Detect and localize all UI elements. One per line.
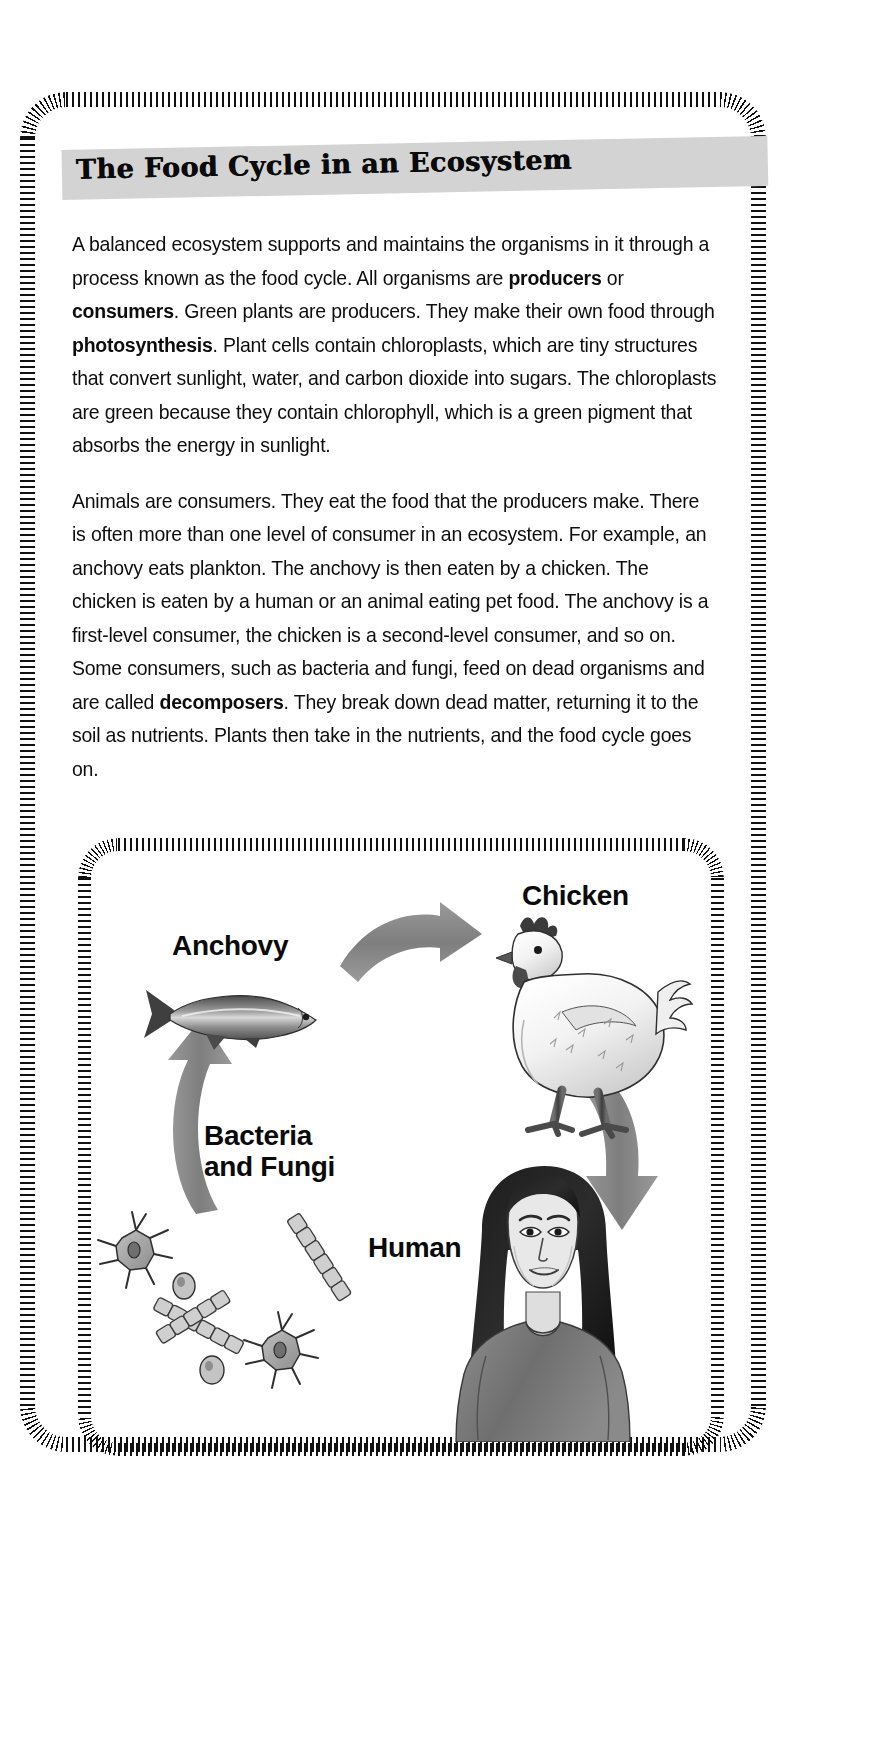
- emphasis-term: decomposers: [160, 691, 284, 713]
- label-anchovy: Anchovy: [172, 930, 288, 962]
- arrow-anchovy-to-chicken-icon: [336, 900, 486, 990]
- bacteria-and-fungi-illustration: [92, 1202, 392, 1422]
- emphasis-term: consumers: [72, 300, 174, 322]
- page-border-top: [66, 92, 720, 107]
- diagram-border-right: [711, 878, 724, 1416]
- paragraph-1: A balanced ecosystem supports and mainta…: [72, 228, 717, 463]
- human-illustration: [430, 1160, 656, 1442]
- page-border-right: [751, 138, 766, 1406]
- chicken-illustration: [466, 900, 702, 1140]
- emphasis-term: photosynthesis: [72, 334, 213, 356]
- article-body: A balanced ecosystem supports and mainta…: [72, 228, 744, 808]
- diagram-border-bottom: [118, 1443, 684, 1456]
- emphasis-term: producers: [508, 267, 601, 289]
- page-border-left: [20, 138, 35, 1406]
- paragraph-2: Animals are consumers. They eat the food…: [72, 485, 717, 787]
- diagram-border-top: [118, 838, 684, 851]
- diagram-border-left: [78, 878, 91, 1416]
- anchovy-illustration: [140, 970, 330, 1060]
- food-cycle-diagram: Chicken Anchovy Bacteria and Fungi Human: [78, 838, 724, 1456]
